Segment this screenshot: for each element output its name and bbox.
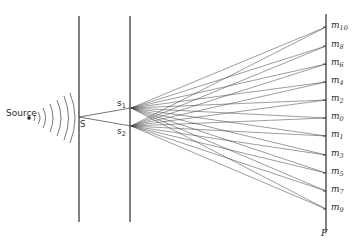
slit-s-label: S	[80, 120, 85, 129]
fringe-label-m4: m4	[331, 76, 344, 87]
source-waves	[27, 93, 75, 143]
fringe-label-m2: m2	[331, 94, 344, 105]
screen-label: F	[321, 229, 327, 238]
source-label: Source	[6, 109, 37, 118]
fringe-label-m1: m1	[331, 130, 344, 141]
fringe-label-m0: m0	[331, 112, 344, 123]
fringe-label-m3: m3	[331, 149, 344, 160]
slit-s1-label: s1	[117, 99, 126, 110]
slit-s2-label: s2	[117, 127, 126, 138]
fringe-label-m5: m5	[331, 167, 344, 178]
rays-to-slits	[79, 108, 131, 126]
double-slit-diagram	[0, 0, 355, 241]
interference-rays	[131, 27, 326, 209]
fringe-label-m8: m8	[331, 40, 344, 51]
fringe-label-m7: m7	[331, 185, 344, 196]
fringe-label-m9: m9	[331, 203, 344, 214]
fringe-label-m6: m6	[331, 58, 344, 69]
fringe-label-m10: m10	[331, 21, 348, 32]
